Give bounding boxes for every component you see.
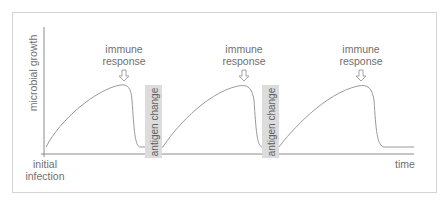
immune-response-line1: immune <box>219 43 269 55</box>
immune-response-label: immune response <box>336 43 386 67</box>
immune-response-line1: immune <box>336 43 386 55</box>
antigen-change-box: antigen change <box>145 85 162 158</box>
x-axis-label: time <box>390 158 420 170</box>
immune-response-line2: response <box>219 55 269 67</box>
antigen-change-label: antigen change <box>265 87 276 155</box>
immune-response-line2: response <box>336 55 386 67</box>
y-axis-label: microbial growth <box>27 35 39 111</box>
growth-curve <box>46 85 414 147</box>
arrow-down-icon <box>356 70 366 81</box>
arrow-down-icon <box>239 70 249 81</box>
arrow-down-icon <box>119 70 129 81</box>
antigen-change-label: antigen change <box>148 87 159 155</box>
immune-response-label: immune response <box>219 43 269 67</box>
antigen-change-box: antigen change <box>262 85 279 158</box>
origin-label: initial infection <box>20 158 70 182</box>
immune-response-line1: immune <box>99 43 149 55</box>
immune-response-label: immune response <box>99 43 149 67</box>
origin-label-line1: initial <box>20 158 70 170</box>
origin-label-line2: infection <box>20 170 70 182</box>
immune-response-line2: response <box>99 55 149 67</box>
